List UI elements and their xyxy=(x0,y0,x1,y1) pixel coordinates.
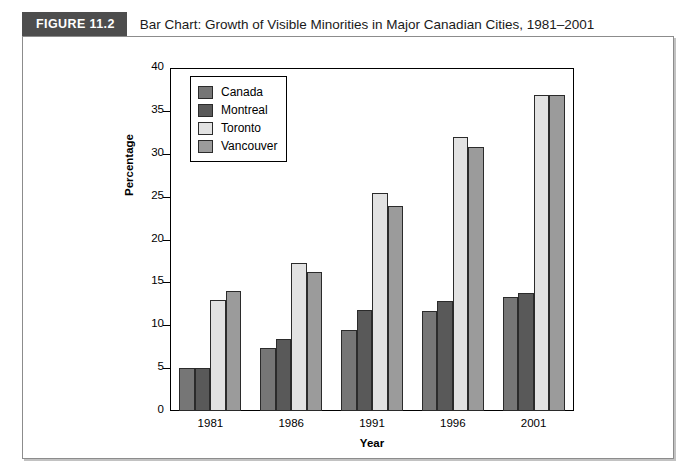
figure-header: FIGURE 11.2 Bar Chart: Growth of Visible… xyxy=(22,12,594,36)
figure-title: Bar Chart: Growth of Visible Minorities … xyxy=(127,12,594,36)
figure-number-badge: FIGURE 11.2 xyxy=(22,12,127,36)
figure-panel xyxy=(22,36,674,459)
